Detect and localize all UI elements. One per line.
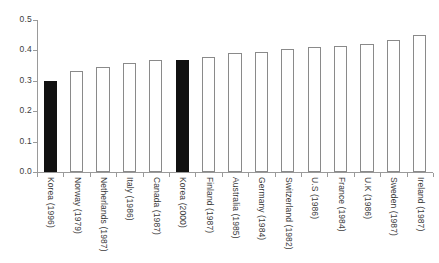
x-axis-tick-label: Australia (1985) — [222, 177, 248, 263]
x-axis-tick-label: Germany (1984) — [248, 177, 274, 263]
x-axis-tick-mark — [143, 173, 144, 177]
x-axis-tick-label-text: Germany (1984) — [257, 177, 266, 240]
x-axis-tick-label-text: Ireland (1987) — [415, 177, 424, 231]
y-axis-tick-label: 0.2 — [4, 106, 32, 115]
x-axis-tick-mark — [380, 173, 381, 177]
bar — [176, 60, 189, 172]
bar — [360, 44, 373, 172]
x-axis-tick-label-text: Italy (1986) — [125, 177, 134, 221]
y-axis-tick-mark — [33, 20, 37, 21]
x-axis-tick-label: Korea (1996) — [37, 177, 63, 263]
x-axis-tick-label-text: Finland (1987) — [204, 177, 213, 233]
x-axis-tick-mark — [327, 173, 328, 177]
y-axis-labels: 0.00.10.20.30.40.5 — [0, 0, 32, 263]
x-axis-tick-mark — [169, 173, 170, 177]
x-axis-tick-label-text: U.K (1986) — [362, 177, 371, 219]
bar — [228, 53, 241, 172]
bar — [202, 57, 215, 172]
x-axis-tick-label-text: France (1984) — [336, 177, 345, 232]
y-axis-tick-label: 0.4 — [4, 45, 32, 54]
y-axis-tick-mark — [33, 81, 37, 82]
x-axis-tick-label-text: Norway (1979) — [72, 177, 81, 234]
y-axis-tick-label: 0.3 — [4, 76, 32, 85]
bar — [334, 46, 347, 172]
x-axis-tick-mark — [301, 173, 302, 177]
y-axis-tick-mark — [33, 111, 37, 112]
x-axis-tick-label-text: Canada (1987) — [151, 177, 160, 235]
x-axis-tick-mark — [407, 173, 408, 177]
x-axis-tick-label-text: Korea (1996) — [46, 177, 55, 228]
bar — [387, 40, 400, 172]
y-axis-tick-mark — [33, 142, 37, 143]
x-axis-tick-mark — [90, 173, 91, 177]
x-axis-line — [37, 172, 433, 173]
y-axis-tick-mark — [33, 50, 37, 51]
x-axis-tick-label: France (1984) — [327, 177, 353, 263]
bar — [413, 35, 426, 172]
x-axis-tick-label-text: Switzerland (1982) — [283, 177, 292, 250]
bar — [255, 52, 268, 172]
x-axis-tick-mark — [248, 173, 249, 177]
bar — [123, 63, 136, 172]
x-axis-tick-label: U.S (1986) — [301, 177, 327, 263]
x-axis-tick-label: Italy (1986) — [116, 177, 142, 263]
x-axis-tick-mark — [63, 173, 64, 177]
x-axis-tick-label-text: U.S (1986) — [310, 177, 319, 219]
bar — [308, 47, 321, 172]
bar — [96, 67, 109, 172]
x-axis-tick-label-text: Sweden (1987) — [389, 177, 398, 236]
x-axis-tick-label: Canada (1987) — [143, 177, 169, 263]
x-axis-tick-label: Norway (1979) — [63, 177, 89, 263]
x-axis-tick-label: Korea (2000) — [169, 177, 195, 263]
bar — [281, 49, 294, 172]
y-axis-tick-label: 0.1 — [4, 137, 32, 146]
x-axis-tick-label-text: Netherlands (1987) — [98, 177, 107, 252]
x-axis-tick-mark — [275, 173, 276, 177]
x-axis-tick-label-text: Australia (1985) — [230, 177, 239, 239]
y-axis-tick-label: 0.0 — [4, 167, 32, 176]
x-axis-labels: Korea (1996)Norway (1979)Netherlands (19… — [37, 177, 433, 263]
bar — [70, 71, 83, 172]
x-axis-tick-label: U.K (1986) — [354, 177, 380, 263]
x-axis-tick-label: Ireland (1987) — [407, 177, 433, 263]
x-axis-tick-mark — [433, 173, 434, 177]
x-axis-tick-label: Finland (1987) — [195, 177, 221, 263]
x-axis-tick-label: Netherlands (1987) — [90, 177, 116, 263]
x-axis-tick-mark — [195, 173, 196, 177]
bar — [44, 81, 57, 172]
x-axis-tick-mark — [37, 173, 38, 177]
bar-chart: 0.00.10.20.30.40.5 Korea (1996)Norway (1… — [0, 0, 439, 263]
x-axis-tick-label: Switzerland (1982) — [275, 177, 301, 263]
y-axis-tick-label: 0.5 — [4, 15, 32, 24]
x-axis-tick-mark — [222, 173, 223, 177]
x-axis-tick-mark — [116, 173, 117, 177]
x-axis-tick-mark — [354, 173, 355, 177]
bar — [149, 60, 162, 172]
plot-area — [37, 20, 433, 172]
x-axis-tick-label-text: Korea (2000) — [178, 177, 187, 228]
x-axis-tick-label: Sweden (1987) — [380, 177, 406, 263]
